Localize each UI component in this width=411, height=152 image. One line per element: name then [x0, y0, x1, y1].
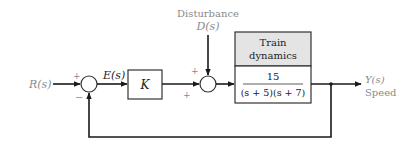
block-diagram: R(s) + − E(s) K Disturbance D(s) + + Tra…: [0, 0, 411, 152]
plant-title-line2: dynamics: [249, 50, 297, 61]
output-label: Y(s): [365, 74, 385, 85]
sum2-top-plus-sign: +: [191, 66, 199, 76]
plant-denominator: (s + 5)(s + 7): [241, 87, 306, 98]
disturbance-label: D(s): [195, 20, 219, 33]
summing-junction-1: [81, 76, 97, 92]
summing-junction-2: [200, 76, 216, 92]
sum1-minus-sign: −: [75, 92, 83, 103]
output-description: Speed: [365, 87, 397, 98]
plant-block: Train dynamics 15 (s + 5)(s + 7): [235, 32, 311, 103]
plant-numerator: 15: [267, 71, 280, 82]
controller-label: K: [140, 78, 151, 92]
plant-title-line1: Train: [259, 37, 287, 48]
disturbance-title: Disturbance: [177, 8, 239, 19]
sum1-plus-sign: +: [73, 71, 81, 81]
error-signal-label: E(s): [102, 69, 125, 82]
sum2-bottom-plus-sign: +: [183, 90, 191, 100]
input-label: R(s): [28, 78, 52, 91]
